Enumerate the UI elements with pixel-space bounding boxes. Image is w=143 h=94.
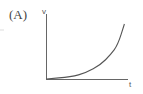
velocity-curve [47, 24, 125, 79]
velocity-time-graph [0, 0, 143, 94]
